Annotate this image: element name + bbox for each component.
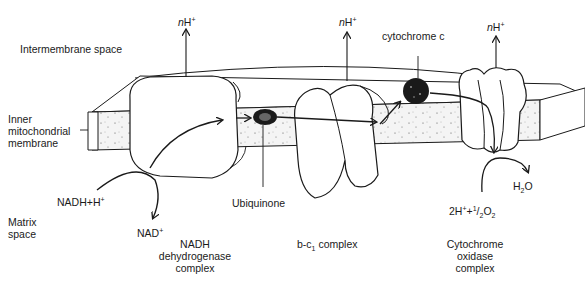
electron-transport-chain-diagram: Intermembrane space Inner mitochondrial … bbox=[0, 0, 585, 281]
nadh-complex-label-line1: NADH bbox=[150, 238, 240, 250]
oxidase-complex-label-line2: oxidase bbox=[435, 250, 515, 262]
inner-membrane-label-line2: mitochondrial bbox=[8, 125, 70, 137]
bc1-complex-shape bbox=[295, 85, 378, 198]
matrix-space-label-line1: Matrix bbox=[8, 216, 37, 228]
water-label: H2O bbox=[513, 180, 533, 192]
matrix-space-label-line2: space bbox=[8, 228, 36, 240]
intermembrane-space-label: Intermembrane space bbox=[20, 43, 122, 55]
nadh-complex-label-line2: dehydrogenase bbox=[150, 250, 240, 262]
inner-membrane-label-line1: Inner bbox=[8, 113, 32, 125]
cytochrome-oxidase-shape bbox=[459, 68, 526, 152]
nadh-reaction-arrow bbox=[97, 172, 158, 218]
proton-label-3: nH+ bbox=[487, 21, 505, 33]
cytochrome-c-label: cytochrome c bbox=[382, 30, 444, 42]
nadh-input-label: NADH+H+ bbox=[57, 196, 105, 208]
membrane-left-cap bbox=[88, 112, 98, 150]
proton-label-2: nH+ bbox=[339, 16, 357, 28]
inner-membrane-label-line3: membrane bbox=[8, 137, 58, 149]
bc1-complex-label: b-c1 complex bbox=[297, 238, 358, 250]
proton-label-1: nH+ bbox=[178, 16, 196, 28]
oxidase-complex-label-line3: complex bbox=[435, 262, 515, 274]
ubiquinone-label: Ubiquinone bbox=[232, 197, 285, 209]
nadh-complex-label-line3: complex bbox=[150, 262, 240, 274]
oxidase-complex-label-line1: Cytochrome bbox=[435, 238, 515, 250]
oxygen-label: 2H++1/2O2 bbox=[449, 205, 495, 217]
nadh-dehydrogenase-shape bbox=[130, 76, 238, 178]
cytochrome-c-shape bbox=[403, 78, 429, 104]
